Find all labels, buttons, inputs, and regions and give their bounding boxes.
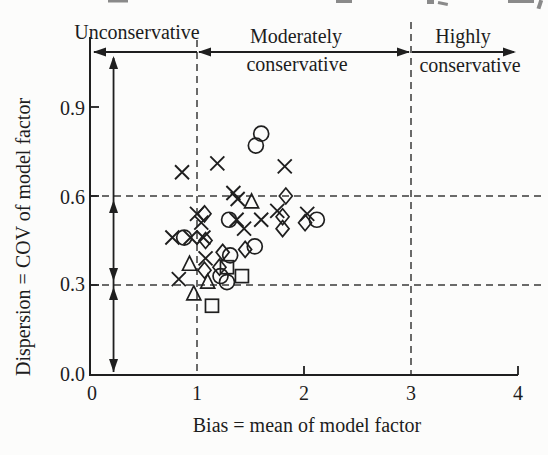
ytick-0.6: 0.6 [60, 186, 85, 208]
series-square [205, 261, 248, 313]
ytick-0.9: 0.9 [60, 97, 85, 119]
data-point-d [213, 259, 226, 275]
data-point-o [222, 212, 237, 227]
arrowhead-down [109, 268, 118, 281]
xtick-0: 0 [87, 382, 97, 404]
arrowhead-down [109, 359, 118, 372]
data-point-d [239, 241, 252, 257]
region-label-unconservative: Unconservative [74, 21, 200, 43]
xtick-2: 2 [299, 382, 309, 404]
arrowhead-left [198, 48, 211, 57]
arrowhead-up [109, 287, 118, 300]
arrowhead-left [93, 48, 106, 57]
arrowhead-right [397, 48, 410, 57]
data-point-x [254, 213, 268, 227]
data-point-o [309, 212, 324, 227]
region-label-moderately-line1: Moderately [250, 25, 342, 48]
figure-container: Unconservative Moderately conservative H… [0, 0, 548, 455]
data-point-o [248, 138, 263, 153]
data-point-x [172, 272, 186, 286]
axes-layer [89, 37, 518, 375]
arrowhead-up [109, 200, 118, 213]
xtick-4: 4 [513, 382, 523, 404]
scan-artifact-top-edge [108, 0, 543, 9]
data-point-o [219, 275, 234, 290]
data-point-^ [183, 256, 197, 270]
ytick-0.3: 0.3 [60, 273, 85, 295]
data-point-s [205, 299, 218, 312]
data-point-s [235, 270, 248, 283]
scatter-chart: Unconservative Moderately conservative H… [0, 0, 548, 455]
ytick-0.0: 0.0 [60, 363, 85, 385]
region-label-highly-line1: Highly [435, 25, 491, 48]
xtick-3: 3 [406, 382, 416, 404]
x-axis-title: Bias = mean of model factor [193, 414, 422, 436]
y-axis-title: Dispersion = COV of model factor [12, 98, 35, 376]
data-point-o [254, 126, 269, 141]
data-point-x [278, 159, 292, 173]
data-point-x [196, 231, 210, 245]
data-point-x [231, 192, 245, 206]
arrowhead-up [109, 56, 118, 69]
region-label-highly-line2: conservative [419, 54, 520, 76]
data-point-d [276, 221, 289, 237]
data-point-x [210, 156, 224, 170]
series-cross [165, 156, 314, 286]
data-point-^ [187, 286, 201, 300]
region-label-moderately-line2: conservative [246, 53, 347, 75]
data-point-x [237, 222, 251, 236]
xtick-1: 1 [192, 382, 202, 404]
data-point-x [175, 165, 189, 179]
